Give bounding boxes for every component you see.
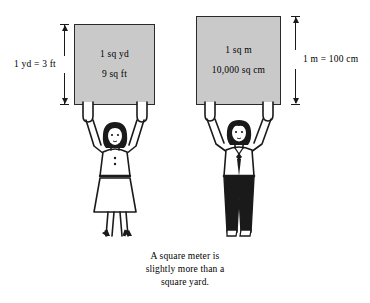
woman-figure <box>74 100 156 240</box>
square-meter-label-secondary: 10,000 sq cm <box>212 65 265 76</box>
yard-dimension-label: 1 yd = 3 ft <box>14 59 56 69</box>
meter-dimension-line <box>295 16 296 105</box>
square-meter-block: 1 sq m 10,000 sq cm <box>196 16 281 105</box>
caption-line-2: slightly more than a <box>0 263 370 276</box>
square-yard-label-secondary: 9 sq ft <box>102 69 127 80</box>
square-meter-vs-square-yard-figure: 1 sq yd 9 sq ft 1 yd = 3 ft <box>0 0 370 303</box>
figure-caption: A square meter is slightly more than a s… <box>0 250 370 288</box>
meter-dimension-label: 1 m = 100 cm <box>303 54 358 64</box>
caption-line-1: A square meter is <box>0 250 370 263</box>
yard-dimension-line <box>64 24 65 105</box>
man-figure <box>196 100 282 240</box>
square-meter-label-primary: 1 sq m <box>225 45 252 56</box>
caption-line-3: square yard. <box>0 276 370 289</box>
square-yard-block: 1 sq yd 9 sq ft <box>74 24 155 105</box>
square-yard-label-primary: 1 sq yd <box>100 49 129 60</box>
